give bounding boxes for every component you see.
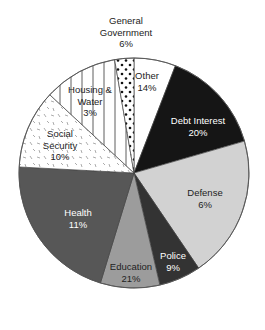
label-general-government: GeneralGovernment6% bbox=[100, 15, 153, 49]
pie-slices bbox=[19, 58, 249, 288]
label-other: Other14% bbox=[135, 70, 159, 93]
pie-chart: Other14%Debt Interest20%Defense6%Police9… bbox=[0, 0, 265, 330]
